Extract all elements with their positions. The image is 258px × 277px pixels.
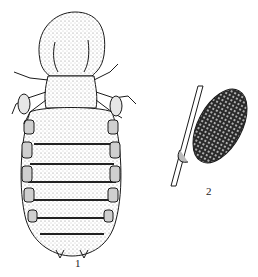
louse-thorax (45, 76, 97, 108)
louse-head (39, 12, 105, 76)
figure-2-label: 2 (206, 186, 212, 197)
figure-1-label: 1 (75, 258, 81, 269)
louse-figure (12, 12, 136, 258)
egg-body (182, 80, 258, 171)
egg-figure (171, 80, 258, 186)
illustration (0, 0, 258, 277)
